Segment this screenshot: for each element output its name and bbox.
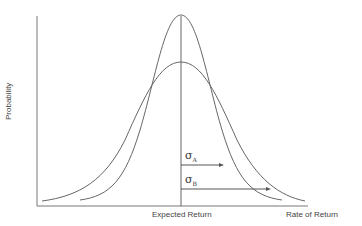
sigma-b-arrowhead-icon xyxy=(266,187,271,191)
x-axis-label: Rate of Return xyxy=(286,210,338,219)
sigma-b-label: σB xyxy=(185,173,197,187)
sigma-a-label: σA xyxy=(185,149,197,163)
sigma-a-subscript: A xyxy=(193,156,197,163)
sigma-a-arrowhead-icon xyxy=(219,163,224,167)
y-axis-label: Probability xyxy=(4,83,13,120)
curve-b xyxy=(42,62,305,201)
x-tick-expected-return: Expected Return xyxy=(152,210,212,219)
chart-canvas xyxy=(0,0,362,226)
sigma-b-symbol: σ xyxy=(185,173,193,186)
sigma-b-subscript: B xyxy=(193,180,197,187)
sigma-a-symbol: σ xyxy=(185,149,193,162)
